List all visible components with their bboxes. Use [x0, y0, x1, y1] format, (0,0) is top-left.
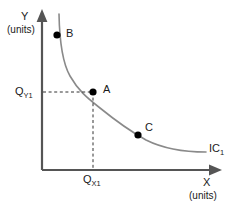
- x-axis-name-label: X: [203, 176, 210, 188]
- data-point-c-marker: [134, 131, 141, 138]
- y-axis-arrow-icon: [37, 9, 48, 22]
- x-axis-tick-label: QX1: [83, 173, 101, 185]
- indifference-curve-figure: Y (units) X (units) QY1 QX1 B A C IC1: [0, 0, 236, 211]
- x-tick-base: Q: [83, 173, 92, 185]
- x-axis-arrow-icon: [209, 165, 222, 176]
- data-point-b-marker: [53, 31, 60, 38]
- y-axis-name-label: Y: [21, 10, 28, 22]
- y-axis-units-label: (units): [7, 24, 35, 36]
- x-tick-subscript: X1: [92, 179, 101, 188]
- curve-label-base: IC: [209, 142, 220, 154]
- data-point-a-label: A: [103, 83, 110, 95]
- y-tick-base: Q: [15, 85, 24, 97]
- data-point-b-label: B: [66, 27, 73, 39]
- curve-label: IC1: [209, 142, 224, 154]
- x-axis-units-label: (units): [189, 190, 217, 202]
- chart-canvas: [0, 0, 236, 211]
- y-axis-tick-label: QY1: [15, 85, 33, 97]
- data-point-a-marker: [89, 88, 96, 95]
- curve-label-subscript: 1: [220, 148, 224, 157]
- data-point-c-label: C: [145, 121, 153, 133]
- y-tick-subscript: Y1: [24, 91, 33, 100]
- indifference-curve-path: [59, 14, 206, 152]
